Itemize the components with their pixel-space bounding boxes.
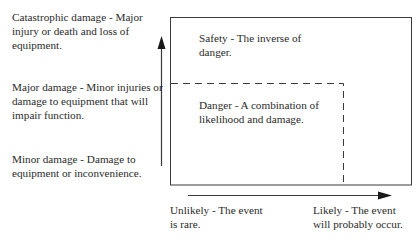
arrow-right-icon [378,192,392,200]
region-danger-label: Danger - A combination of likelihood and… [199,98,319,126]
label-unlikely: Unlikely - The event is rare. [170,203,263,231]
arrow-up-icon [158,36,166,49]
label-minor-damage: Minor damage - Damage to equipment or in… [12,152,142,180]
region-safety-label: Safety - The inverse of danger. [199,31,301,59]
label-catastrophic-damage: Catastrophic damage - Major injury or de… [12,10,143,52]
label-likely: Likely - The event will probably occur. [313,203,403,231]
label-major-damage: Major damage - Minor injuries or damage … [12,80,163,122]
